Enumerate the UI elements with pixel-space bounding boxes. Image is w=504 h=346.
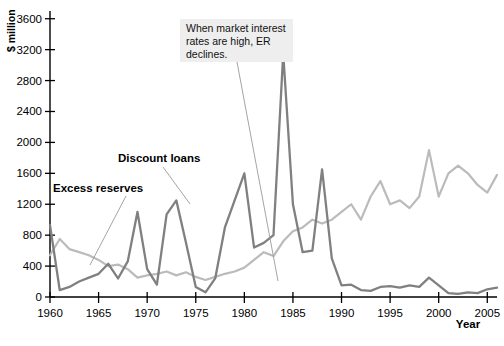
x-tick-label: 1970 bbox=[134, 307, 160, 319]
annotation-line-1: When market interest bbox=[186, 22, 286, 34]
annotation-line-3: declines. bbox=[186, 48, 227, 60]
label-discount-loans: Discount loans bbox=[118, 152, 200, 164]
x-tick-label: 1975 bbox=[183, 307, 209, 319]
y-tick-label: 1200 bbox=[16, 198, 42, 210]
excess-reserves-discount-loans-chart: $ million 040080012001600200024002800320… bbox=[0, 0, 504, 346]
annotation-line-2: rates are high, ER bbox=[186, 35, 271, 47]
x-tick-label: 1980 bbox=[232, 307, 258, 319]
x-tick-label: 1995 bbox=[377, 307, 403, 319]
x-axis-title: Year bbox=[456, 318, 481, 330]
x-tick-label: 1965 bbox=[86, 307, 112, 319]
y-tick-label: 400 bbox=[23, 260, 42, 272]
discount-loans-leader-line bbox=[163, 167, 190, 204]
y-tick-label: 800 bbox=[23, 229, 42, 241]
annotation-leader-line bbox=[237, 62, 278, 281]
x-tick-label: 2000 bbox=[426, 307, 452, 319]
x-axis-ticks: 1960196519701975198019851990199520002005 bbox=[37, 292, 500, 319]
chart-container: $ million 040080012001600200024002800320… bbox=[0, 0, 504, 346]
x-tick-label: 1990 bbox=[329, 307, 355, 319]
excess-reserves-leader-line bbox=[90, 196, 126, 265]
y-tick-label: 3200 bbox=[16, 44, 42, 56]
y-tick-label: 3600 bbox=[16, 13, 42, 25]
y-tick-label: 2400 bbox=[16, 105, 42, 117]
y-tick-label: 0 bbox=[36, 291, 42, 303]
y-tick-label: 1600 bbox=[16, 167, 42, 179]
y-axis-title: $ million bbox=[5, 9, 17, 52]
x-tick-label: 1960 bbox=[37, 307, 63, 319]
y-tick-label: 2800 bbox=[16, 75, 42, 87]
label-excess-reserves: Excess reserves bbox=[53, 182, 143, 194]
y-axis-ticks: 04008001200160020002400280032003600 bbox=[16, 13, 55, 303]
x-tick-label: 1985 bbox=[280, 307, 306, 319]
y-tick-label: 2000 bbox=[16, 136, 42, 148]
